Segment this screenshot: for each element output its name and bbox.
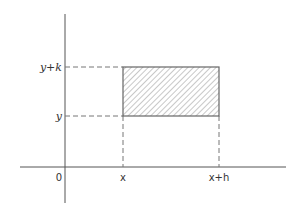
label-y: y	[55, 110, 63, 123]
label-x: x	[120, 172, 126, 183]
label-y-plus-k: y+k	[39, 61, 62, 74]
label-x-plus-h: x+h	[209, 172, 230, 183]
coordinate-diagram: y+k y 0 x x+h	[0, 0, 299, 208]
hatched-rectangle	[123, 67, 219, 116]
label-origin: 0	[56, 172, 62, 183]
